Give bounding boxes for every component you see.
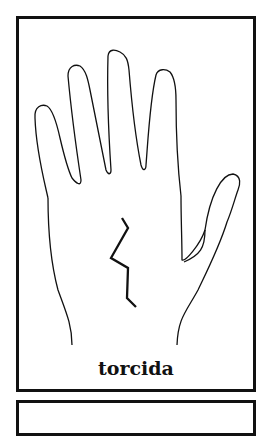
zigzag-line <box>111 218 136 307</box>
next-frame <box>16 400 256 436</box>
caption-label: torcida <box>16 357 256 379</box>
